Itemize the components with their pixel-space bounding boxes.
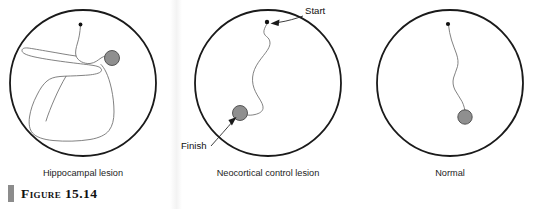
panel-label-normal: Normal [435, 168, 465, 178]
panel-label-hippocampal: Hippocampal lesion [43, 168, 123, 178]
start-dot-normal [446, 22, 450, 26]
caption-accent-bar [8, 185, 14, 202]
platform-marker-hippocampal [105, 51, 120, 66]
panel-neocortical-control-lesion: Neocortical control lesion [195, 10, 341, 178]
callout-label-finish: Finish [181, 140, 207, 151]
figure-caption-text: Figure 15.14 [21, 186, 97, 202]
figure-caption: Figure 15.14 [8, 185, 97, 202]
panel-normal: Normal [377, 10, 523, 178]
start-dot-neocortical [265, 20, 269, 24]
figure-15-14: Hippocampal lesion Neocortical control l… [0, 0, 542, 209]
platform-marker-normal [458, 110, 472, 124]
panel-hippocampal-lesion: Hippocampal lesion [10, 10, 156, 178]
arena-circle-neocortical [195, 10, 341, 156]
panel-label-neocortical: Neocortical control lesion [217, 168, 320, 178]
start-dot-hippocampal [79, 23, 83, 27]
callout-label-start: Start [305, 5, 326, 16]
arena-circle-normal [377, 10, 523, 156]
arena-circle-hippocampal [10, 10, 156, 156]
water-maze-figure-svg: Hippocampal lesion Neocortical control l… [0, 0, 542, 209]
